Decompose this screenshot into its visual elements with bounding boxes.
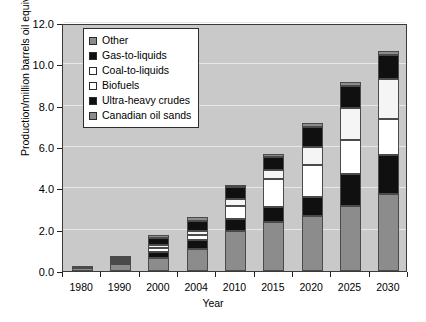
x-axis-tick-mark <box>177 272 178 277</box>
bar-segment-gas-to-liquids <box>378 55 399 79</box>
legend-swatch-icon <box>89 82 97 90</box>
legend-item: Canadian oil sands <box>89 108 191 123</box>
bar-segment-other <box>378 51 399 55</box>
bar-segment-ultra-heavy-crudes <box>187 240 208 249</box>
bar-1980 <box>72 267 93 271</box>
bar-segment-biofuels <box>148 248 169 252</box>
legend-item: Gas-to-liquids <box>89 48 191 63</box>
stacked-bar-chart: Production/million barrels oil equivalen… <box>0 0 426 322</box>
bar-segment-canadian-oil-sands <box>302 216 323 271</box>
bar-segment-coal-to-liquids <box>110 259 131 261</box>
bar-segment-other <box>263 154 284 157</box>
y-axis-tick-label: 6.0 <box>0 142 54 154</box>
bar-segment-coal-to-liquids <box>302 147 323 165</box>
bar-2000 <box>148 235 169 271</box>
bar-segment-canadian-oil-sands <box>263 222 284 271</box>
bar-segment-biofuels <box>302 165 323 197</box>
bar-segment-biofuels <box>263 179 284 207</box>
y-axis-tick-label: 10.0 <box>0 59 54 71</box>
bar-2010 <box>225 185 246 271</box>
bar-segment-canadian-oil-sands <box>110 264 131 271</box>
bar-segment-canadian-oil-sands <box>378 194 399 272</box>
x-axis-tick-label: 2000 <box>146 281 169 293</box>
bar-2030 <box>378 51 399 271</box>
x-axis-tick-label: 1980 <box>69 281 92 293</box>
bar-2015 <box>263 154 284 271</box>
x-axis-tick-label: 2015 <box>261 281 284 293</box>
bar-segment-biofuels <box>110 261 131 263</box>
bar-segment-other <box>72 266 93 268</box>
bar-segment-coal-to-liquids <box>340 108 361 140</box>
x-axis-tick-mark <box>407 272 408 277</box>
x-axis-title: Year <box>0 297 426 309</box>
y-axis-tick-label: 12.0 <box>0 18 54 30</box>
bar-segment-gas-to-liquids <box>263 157 284 169</box>
bar-1990 <box>110 256 131 272</box>
legend-swatch-icon <box>89 52 97 60</box>
legend-item-label: Canadian oil sands <box>102 110 191 121</box>
legend-item: Biofuels <box>89 78 191 93</box>
x-axis-tick-mark <box>100 272 101 277</box>
bar-segment-coal-to-liquids <box>263 170 284 179</box>
bar-segment-coal-to-liquids <box>187 231 208 235</box>
chart-legend: OtherGas-to-liquidsCoal-to-liquidsBiofue… <box>83 28 199 128</box>
bar-segment-gas-to-liquids <box>187 221 208 230</box>
bar-segment-other <box>302 123 323 127</box>
gridline <box>63 22 406 23</box>
bar-segment-ultra-heavy-crudes <box>263 207 284 223</box>
legend-swatch-icon <box>89 112 97 120</box>
y-axis-tick-label: 4.0 <box>0 183 54 195</box>
bar-2004 <box>187 217 208 271</box>
bar-segment-canadian-oil-sands <box>72 268 93 271</box>
legend-item: Coal-to-liquids <box>89 63 191 78</box>
bar-segment-canadian-oil-sands <box>148 258 169 271</box>
bar-segment-ultra-heavy-crudes <box>148 252 169 257</box>
x-axis-tick-mark <box>215 272 216 277</box>
x-axis-tick-mark <box>62 272 63 277</box>
bar-segment-canadian-oil-sands <box>225 231 246 271</box>
legend-item: Other <box>89 33 191 48</box>
bar-segment-ultra-heavy-crudes <box>340 174 361 206</box>
bar-segment-gas-to-liquids <box>340 86 361 108</box>
bar-segment-other <box>340 82 361 86</box>
bar-segment-biofuels <box>187 235 208 240</box>
bar-segment-gas-to-liquids <box>225 187 246 198</box>
bar-segment-canadian-oil-sands <box>187 249 208 271</box>
bar-segment-ultra-heavy-crudes <box>302 197 323 217</box>
bar-segment-biofuels <box>225 206 246 219</box>
bar-segment-coal-to-liquids <box>225 199 246 206</box>
bar-segment-biofuels <box>378 119 399 155</box>
x-axis-tick-label: 2010 <box>223 281 246 293</box>
legend-item-label: Other <box>102 35 128 46</box>
y-axis-tick-label: 2.0 <box>0 225 54 237</box>
x-axis-tick-label: 1990 <box>108 281 131 293</box>
legend-swatch-icon <box>89 37 97 45</box>
bar-segment-gas-to-liquids <box>302 127 323 147</box>
bar-segment-canadian-oil-sands <box>340 206 361 271</box>
bar-segment-coal-to-liquids <box>378 79 399 119</box>
x-axis-tick-label: 2020 <box>299 281 322 293</box>
y-axis-tick-label: 0.0 <box>0 266 54 278</box>
x-axis-tick-mark <box>369 272 370 277</box>
x-axis-tick-label: 2004 <box>184 281 207 293</box>
x-axis-tick-mark <box>330 272 331 277</box>
bar-segment-other <box>187 217 208 221</box>
legend-swatch-icon <box>89 97 97 105</box>
bar-segment-other <box>110 256 131 258</box>
x-axis-tick-label: 2025 <box>338 281 361 293</box>
bar-segment-other <box>225 185 246 187</box>
bar-segment-biofuels <box>340 140 361 174</box>
legend-item-label: Biofuels <box>102 80 139 91</box>
legend-item-label: Gas-to-liquids <box>102 50 167 61</box>
bar-segment-ultra-heavy-crudes <box>378 155 399 193</box>
x-axis-tick-mark <box>292 272 293 277</box>
bar-segment-gas-to-liquids <box>148 238 169 245</box>
x-axis-tick-mark <box>254 272 255 277</box>
legend-swatch-icon <box>89 67 97 75</box>
bar-2020 <box>302 123 323 271</box>
legend-item-label: Coal-to-liquids <box>102 65 169 76</box>
bar-segment-other <box>148 235 169 238</box>
bar-2025 <box>340 82 361 271</box>
legend-item-label: Ultra-heavy crudes <box>102 95 190 106</box>
x-axis-tick-label: 2030 <box>376 281 399 293</box>
